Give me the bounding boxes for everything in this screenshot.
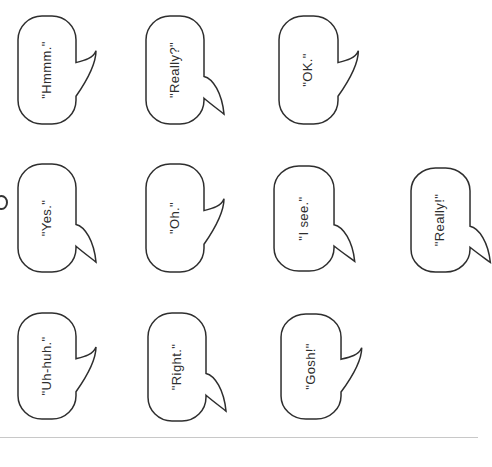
speech-bubble: "Right."	[147, 312, 228, 422]
speech-bubble: "Uh-huh."	[17, 312, 98, 420]
bubble-label: "I see."	[273, 165, 333, 272]
bubble-label: "Really?"	[145, 15, 203, 125]
speech-bubble: "Yes."	[17, 163, 98, 273]
bubble-label: "Uh-huh."	[17, 312, 75, 420]
bubble-label: "Oh."	[145, 163, 203, 273]
speech-bubble: "OK."	[278, 15, 360, 125]
speech-bubble: "Hmmm."	[17, 15, 98, 125]
speech-bubble: "I see."	[273, 165, 357, 272]
speech-bubble: "Gosh!"	[280, 313, 364, 420]
cut-off-left-glyph	[0, 195, 8, 210]
page-bottom-rule	[0, 437, 478, 438]
bubble-label: "Really!"	[410, 167, 469, 273]
bubble-label: "OK."	[278, 15, 337, 125]
bubble-label: "Hmmm."	[17, 15, 75, 125]
bubble-label: "Yes."	[17, 163, 75, 273]
bubble-label: "Right."	[147, 312, 205, 422]
speech-bubble: "Really!"	[410, 167, 492, 273]
speech-bubble: "Really?"	[145, 15, 226, 125]
bubble-label: "Gosh!"	[280, 313, 340, 420]
speech-bubble: "Oh."	[145, 163, 226, 273]
